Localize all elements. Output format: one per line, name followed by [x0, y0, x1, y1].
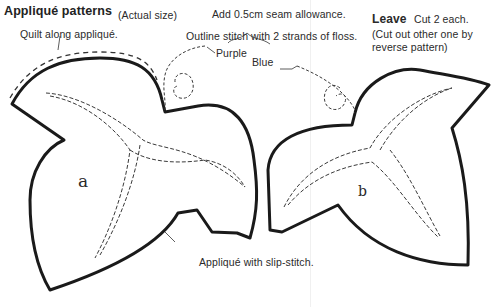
blue-swirl-stitch	[297, 66, 355, 110]
pattern-title: Appliqué patterns	[4, 4, 112, 18]
quilt-annotation: Quilt along appliqué.	[20, 28, 118, 40]
leave-heading: Leave	[372, 12, 407, 26]
piece-b-label: b	[358, 183, 367, 199]
blue-color-label: Blue	[252, 56, 273, 68]
outline-stitch-annotation: Outline stitch with 2 strands of floss.	[186, 30, 357, 42]
cut-instruction: Cut 2 each.	[414, 13, 469, 25]
reverse-pattern-note-line1: (Cut out other one by	[372, 28, 473, 40]
purple-swirl-stitch	[164, 46, 205, 110]
pattern-subtitle: (Actual size)	[118, 9, 177, 21]
reverse-pattern-note-line2: reverse pattern)	[372, 41, 448, 53]
slip-stitch-annotation: Appliqué with slip-stitch.	[199, 256, 314, 268]
purple-color-label: Purple	[216, 47, 247, 59]
seam-allowance-note: Add 0.5cm seam allowance.	[212, 8, 346, 20]
leaf-b-vein-stitches	[284, 88, 452, 237]
piece-a-label: a	[78, 171, 88, 191]
